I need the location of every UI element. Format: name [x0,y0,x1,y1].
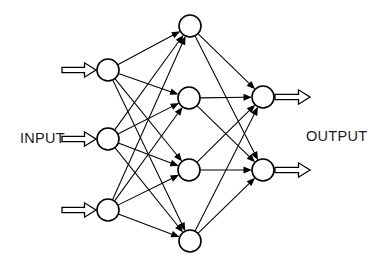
input-node-i2 [97,128,119,150]
hidden-node-h3 [178,159,200,181]
input-label: INPUT [20,130,65,146]
output-label: OUTPUT [306,128,367,144]
connection-edge [200,97,245,98]
input-node-i3 [97,199,119,221]
network-canvas: INPUT OUTPUT [0,0,385,263]
hidden-node-h1 [179,15,201,37]
neural-network-diagram: INPUT OUTPUT [0,0,385,263]
input-node-i1 [97,59,119,81]
hidden-node-h4 [179,230,201,252]
output-node-o1 [252,86,274,108]
hidden-node-h2 [178,87,200,109]
output-node-o2 [252,159,274,181]
